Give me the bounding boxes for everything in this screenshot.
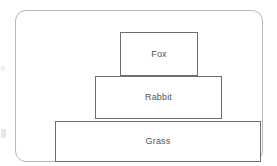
pyramid-level-grass[interactable]: Grass bbox=[55, 121, 261, 162]
cropped-glyph-artifact-upper bbox=[1, 66, 5, 71]
pyramid-level-rabbit-label: Rabbit bbox=[145, 93, 172, 102]
cropped-glyph-artifact-lower bbox=[1, 129, 6, 138]
pyramid-level-fox-label: Fox bbox=[151, 50, 166, 59]
page-edge-artifacts bbox=[0, 0, 14, 166]
pyramid-level-rabbit[interactable]: Rabbit bbox=[95, 76, 222, 119]
pyramid-level-grass-label: Grass bbox=[146, 137, 171, 146]
ecological-pyramid-diagram: Fox Rabbit Grass bbox=[15, 10, 263, 162]
pyramid-level-fox[interactable]: Fox bbox=[120, 32, 198, 76]
